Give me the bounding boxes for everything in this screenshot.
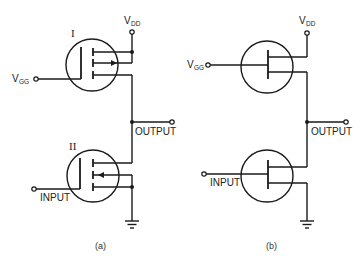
transistor-I-envelope [66, 39, 118, 91]
input-terminal-b [202, 172, 206, 176]
vdd-label-b: V [299, 15, 306, 26]
lower-fet-b [206, 150, 307, 202]
upper-fet-envelope [241, 41, 293, 93]
upper-fet-b [210, 41, 307, 93]
vgg-terminal-a [34, 77, 38, 81]
arrow-left-icon [98, 172, 104, 178]
junction-dot [130, 50, 134, 54]
vgg-subscript-a: GG [19, 78, 29, 85]
lower-fet-envelope [241, 150, 293, 202]
output-terminal-b [344, 120, 348, 124]
caption-b: (b) [266, 241, 277, 251]
input-label-a: INPUT [40, 192, 70, 203]
vgg-label-b: V [187, 59, 194, 70]
vdd-subscript-a: DD [131, 20, 141, 27]
ground-icon [125, 221, 139, 228]
arrow-right-icon [111, 60, 117, 66]
panel-a: V DD I V GG [12, 15, 176, 251]
transistor-II-label: II [69, 140, 77, 152]
transistor-I: I [36, 27, 132, 91]
caption-a: (a) [95, 241, 106, 251]
output-label-b: OUTPUT [311, 126, 352, 137]
mosfet-inverter-diagram: V DD I V GG [0, 0, 364, 263]
transistor-I-label: I [71, 27, 75, 39]
ground-icon [300, 221, 314, 228]
vdd-terminal-a [130, 30, 134, 34]
output-label-a: OUTPUT [135, 126, 176, 137]
vgg-terminal-b [206, 63, 210, 67]
panel-b: V DD V GG OUTPUT [187, 15, 352, 251]
vdd-subscript-b: DD [306, 20, 316, 27]
input-label-b: INPUT [210, 177, 240, 188]
input-terminal-a [32, 187, 36, 191]
vgg-label-a: V [12, 73, 19, 84]
vdd-terminal-b [305, 31, 309, 35]
output-terminal-a [170, 120, 174, 124]
vgg-subscript-b: GG [194, 64, 204, 71]
junction-dot [130, 185, 134, 189]
vdd-label-a: V [124, 15, 131, 26]
